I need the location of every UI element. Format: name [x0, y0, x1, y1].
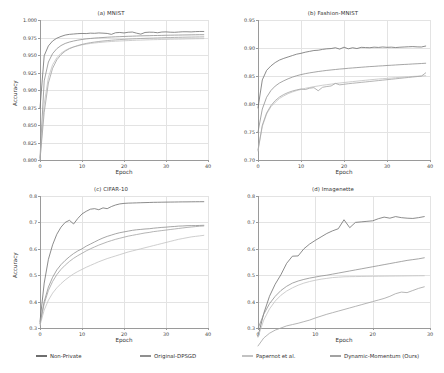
plot-area: 0.8000.8250.8500.8750.9000.9250.9500.975… [40, 20, 208, 160]
legend-label: Non-Private [50, 353, 82, 359]
series-line [258, 217, 424, 337]
plot-area: 0.30.40.50.60.70.80102030Epoch [258, 196, 430, 328]
x-axis-line [258, 160, 430, 161]
y-axis-tick-label: 0.75 [244, 129, 255, 135]
panel-title: (c) CIFAR-10 [0, 186, 222, 192]
y-axis-tick-label: 0.4 [247, 299, 255, 305]
series-layer [258, 196, 430, 328]
series-line [40, 37, 204, 160]
y-axis-tick-label: 0.3 [29, 325, 37, 331]
y-axis-tick-label: 0.5 [247, 272, 255, 278]
plot-area: 0.30.40.50.60.70.8010203040EpochAccuracy [40, 196, 208, 328]
series-line [258, 73, 426, 150]
legend-item[interactable]: Dynamic-Momentum (Ours) [330, 353, 419, 359]
y-axis-label: Accuracy [12, 252, 18, 278]
x-axis-line [40, 160, 208, 161]
series-line [258, 258, 424, 329]
series-layer [40, 20, 208, 160]
y-axis-tick-label: 0.4 [29, 299, 37, 305]
x-axis-label: Epoch [258, 169, 430, 175]
figure-container: (a) MNIST 0.8000.8250.8500.8750.9000.925… [0, 0, 444, 373]
legend-label: Papernot et al. [256, 353, 295, 359]
y-axis-tick-label: 0.800 [23, 157, 37, 163]
y-axis-tick-label: 0.975 [23, 35, 37, 41]
series-line [40, 39, 204, 160]
series-line [40, 225, 204, 323]
x-axis-label: Epoch [40, 169, 208, 175]
y-axis-tick-label: 0.7 [247, 219, 255, 225]
y-axis-tick-label: 0.80 [244, 101, 255, 107]
y-axis-tick-label: 0.925 [23, 70, 37, 76]
series-layer [40, 196, 208, 328]
gridline-vertical [208, 20, 209, 160]
gridline-vertical [208, 196, 209, 328]
series-line [40, 226, 204, 324]
y-axis-tick-label: 0.900 [23, 87, 37, 93]
series-line [258, 76, 426, 151]
panel-title: (d) Imagenette [222, 186, 444, 192]
y-axis-tick-label: 0.6 [29, 246, 37, 252]
legend-item[interactable]: Original-DPSGD [140, 353, 196, 359]
plot-area: 0.700.750.800.850.900.95010203040Epoch [258, 20, 430, 160]
panel-title: (b) Fashion-MNIST [222, 10, 444, 16]
series-line [258, 63, 426, 132]
series-line [40, 235, 204, 325]
y-axis-tick-label: 0.8 [247, 193, 255, 199]
y-axis-tick-label: 0.5 [29, 272, 37, 278]
y-axis-tick-label: 0.70 [244, 157, 255, 163]
series-line [40, 31, 204, 108]
y-axis-tick-label: 0.90 [244, 45, 255, 51]
x-axis-label: Epoch [40, 337, 208, 343]
y-axis-tick-label: 0.85 [244, 73, 255, 79]
x-axis-label: Epoch [258, 337, 430, 343]
legend-label: Original-DPSGD [154, 353, 196, 359]
figure-legend: Non-PrivateOriginal-DPSGDPapernot et al.… [0, 348, 444, 364]
legend-color-swatch [140, 355, 151, 356]
legend-color-swatch [330, 355, 341, 356]
y-axis-tick-label: 0.825 [23, 140, 37, 146]
gridline-vertical [430, 196, 431, 328]
chart-panel-cifar10: (c) CIFAR-10 0.30.40.50.60.70.8010203040… [0, 186, 222, 351]
series-line [40, 35, 204, 158]
legend-item[interactable]: Papernot et al. [242, 353, 295, 359]
series-layer [258, 20, 430, 160]
chart-panel-imagenette: (d) Imagenette 0.30.40.50.60.70.80102030… [222, 186, 444, 351]
y-axis-tick-label: 0.8 [29, 193, 37, 199]
y-axis-tick-label: 0.3 [247, 325, 255, 331]
chart-panel-fashion-mnist: (b) Fashion-MNIST 0.700.750.800.850.900.… [222, 10, 444, 182]
x-axis-line [40, 328, 208, 329]
y-axis-tick-label: 0.850 [23, 122, 37, 128]
x-axis-line [258, 328, 430, 329]
y-axis-tick-label: 1.000 [23, 17, 37, 23]
legend-color-swatch [242, 355, 253, 356]
gridline-vertical [430, 20, 431, 160]
y-axis-tick-label: 0.7 [29, 219, 37, 225]
y-axis-tick-label: 0.875 [23, 105, 37, 111]
chart-panel-mnist: (a) MNIST 0.8000.8250.8500.8750.9000.925… [0, 10, 222, 182]
legend-label: Dynamic-Momentum (Ours) [344, 353, 419, 359]
panel-title: (a) MNIST [0, 10, 222, 16]
y-axis-tick-label: 0.95 [244, 17, 255, 23]
legend-color-swatch [36, 355, 47, 356]
y-axis-label: Accuracy [12, 80, 18, 106]
y-axis-tick-label: 0.950 [23, 52, 37, 58]
legend-item[interactable]: Non-Private [36, 353, 82, 359]
y-axis-tick-label: 0.6 [247, 246, 255, 252]
